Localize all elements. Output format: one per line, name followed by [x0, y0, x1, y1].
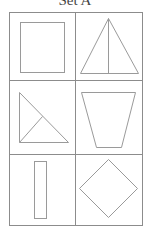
cell-r1-c2 — [81, 19, 139, 74]
trapezoid-shape — [82, 93, 136, 148]
square-shape — [21, 23, 65, 73]
diamond-shape — [80, 160, 138, 218]
cell-r1-c1 — [21, 23, 65, 73]
shape-grid-figure — [0, 0, 150, 235]
rectangle-shape — [35, 162, 47, 219]
cell-r2-c2 — [82, 93, 136, 148]
right-triangle-segment-line — [20, 117, 43, 143]
isosceles-triangle-shape — [81, 19, 139, 74]
cell-r3-c2 — [80, 160, 138, 218]
right-triangle-shape — [20, 93, 69, 143]
cell-r2-c1 — [20, 93, 69, 143]
cell-r3-c1 — [35, 162, 47, 219]
